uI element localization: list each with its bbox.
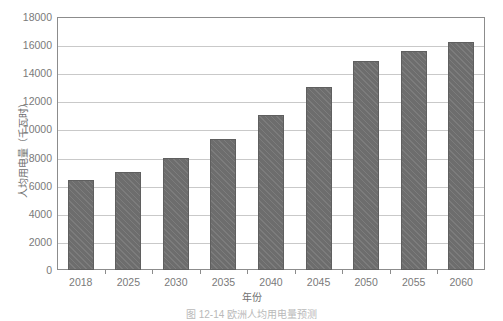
bar-series bbox=[57, 17, 485, 270]
bar-slot bbox=[105, 17, 153, 270]
x-axis-tick-mark bbox=[437, 270, 438, 274]
y-axis-tick-label: 2000 bbox=[8, 237, 52, 248]
bar-slot bbox=[57, 17, 105, 270]
bar[interactable] bbox=[163, 158, 189, 270]
y-axis-tick-label: 4000 bbox=[8, 209, 52, 220]
x-axis-tick-mark bbox=[105, 270, 106, 274]
x-axis-tick-mark bbox=[247, 270, 248, 274]
bar[interactable] bbox=[115, 172, 141, 270]
x-axis-title: 年份 bbox=[0, 289, 503, 304]
x-axis-tick-mark bbox=[295, 270, 296, 274]
y-axis-tick-label: 18000 bbox=[8, 12, 52, 23]
bar[interactable] bbox=[210, 139, 236, 270]
y-axis-tick-label: 10000 bbox=[8, 124, 52, 135]
x-axis-tick-mark bbox=[342, 270, 343, 274]
bar[interactable] bbox=[258, 115, 284, 270]
bar-slot bbox=[200, 17, 248, 270]
bar[interactable] bbox=[353, 61, 379, 270]
x-axis-tick-mark bbox=[390, 270, 391, 274]
x-axis-tick-mark bbox=[200, 270, 201, 274]
y-axis-tick-label: 0 bbox=[8, 265, 52, 276]
bar-slot bbox=[295, 17, 343, 270]
y-axis-tick-label: 8000 bbox=[8, 153, 52, 164]
bar[interactable] bbox=[306, 87, 332, 270]
figure-caption: 图 12-14 欧洲人均用电量预测 bbox=[0, 306, 503, 321]
x-axis-tick-mark bbox=[152, 270, 153, 274]
y-axis-tick-label: 16000 bbox=[8, 40, 52, 51]
y-axis-tick-label: 14000 bbox=[8, 68, 52, 79]
bar[interactable] bbox=[401, 51, 427, 270]
bar-slot bbox=[247, 17, 295, 270]
bar[interactable] bbox=[68, 180, 94, 270]
bar[interactable] bbox=[448, 42, 474, 270]
y-axis-tick-label: 12000 bbox=[8, 96, 52, 107]
bar-slot bbox=[342, 17, 390, 270]
y-axis-tick-label: 6000 bbox=[8, 181, 52, 192]
bar-slot bbox=[437, 17, 485, 270]
x-axis-tick-label: 2060 bbox=[431, 277, 491, 288]
bar-slot bbox=[390, 17, 438, 270]
bar-slot bbox=[152, 17, 200, 270]
